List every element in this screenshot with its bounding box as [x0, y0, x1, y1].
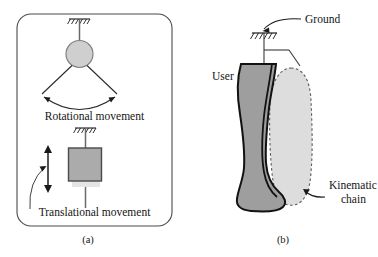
- ground-leader-arrow: [263, 19, 302, 33]
- chain-leader-arrow: [303, 189, 325, 197]
- pendulum-link-left: [42, 66, 72, 95]
- figure-container: Rotational movement: [0, 0, 378, 257]
- ground-label: Ground: [305, 13, 340, 25]
- pendulum-link-right: [87, 66, 117, 95]
- panel-b: Ground User Kinematic chain (b): [212, 13, 377, 246]
- panel-a-caption: (a): [82, 234, 94, 246]
- rotation-arc-double-arrow: [44, 97, 115, 110]
- prismatic-joint-block: [69, 128, 102, 208]
- prismatic-slider-dark: [69, 148, 102, 181]
- user-label: User: [212, 70, 234, 82]
- figure-svg: Rotational movement: [0, 0, 378, 257]
- kinematic-chain-label-line2: chain: [341, 193, 366, 205]
- panel-a: Rotational movement: [17, 14, 172, 246]
- panel-b-caption: (b): [277, 234, 290, 246]
- translational-movement-label: Translational movement: [39, 206, 151, 218]
- vertical-double-arrow: [44, 145, 52, 193]
- rotational-movement-label: Rotational movement: [45, 110, 145, 122]
- kinematic-chain-label-line1: Kinematic: [329, 179, 377, 191]
- revolute-joint-circle: [66, 41, 93, 68]
- kinematic-chain-shape: [270, 68, 313, 205]
- curved-leader-line: [30, 166, 47, 209]
